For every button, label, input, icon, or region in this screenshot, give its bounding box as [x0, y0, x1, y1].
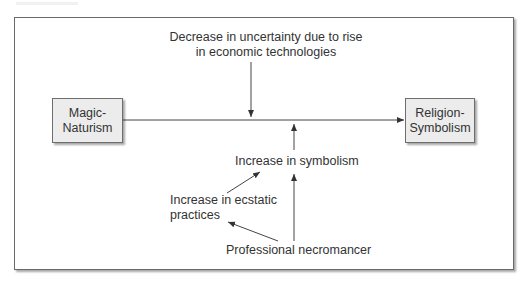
node-religion-symbolism-line1: Religion- — [409, 106, 470, 121]
node-magic-naturism-line2: Naturism — [62, 121, 112, 136]
node-magic-naturism: Magic- Naturism — [52, 98, 123, 143]
node-religion-symbolism-line2: Symbolism — [409, 121, 470, 136]
label-decrease-uncertainty-line2: in economic technologies — [140, 45, 392, 60]
label-increase-symbolism: Increase in symbolism — [235, 154, 359, 169]
label-decrease-uncertainty: Decrease in uncertainty due to rise in e… — [140, 30, 392, 60]
label-increase-ecstatic-line2: practices — [170, 208, 277, 223]
label-increase-ecstatic-line1: Increase in ecstatic — [170, 193, 277, 208]
label-decrease-uncertainty-line1: Decrease in uncertainty due to rise — [140, 30, 392, 45]
ecstatic-to-symbolism-arrow — [227, 172, 260, 193]
label-professional-necromancer: Professional necromancer — [226, 243, 371, 258]
necromancer-to-ecstatic-arrow — [228, 222, 278, 241]
node-magic-naturism-line1: Magic- — [62, 106, 112, 121]
node-religion-symbolism: Religion- Symbolism — [405, 98, 475, 143]
label-increase-ecstatic: Increase in ecstatic practices — [170, 193, 277, 223]
